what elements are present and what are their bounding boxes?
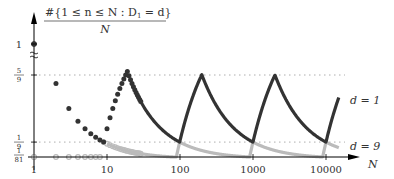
y-tick-label-den: 81 — [15, 156, 24, 164]
y-tick-label-den: 9 — [17, 76, 21, 84]
x-axis-arrow-icon — [348, 154, 360, 160]
data-point — [125, 69, 130, 74]
label-d1: d = 1 — [350, 94, 380, 107]
data-point — [101, 140, 106, 145]
data-point — [113, 98, 118, 103]
chart: 11010010001000018119591 #{1 ≤ n ≤ N : D1… — [0, 0, 394, 179]
x-tick-label: 10000 — [310, 164, 342, 175]
data-point — [66, 106, 71, 111]
y-tick-label-den: 9 — [17, 143, 21, 151]
y-axis-arrow-icon — [31, 12, 37, 24]
title-numerator: #{1 ≤ n ≤ N : D1 = d} — [45, 6, 172, 20]
series-line-d9 — [107, 142, 339, 157]
data-point — [88, 131, 93, 136]
x-tick-label: 100 — [170, 164, 189, 175]
data-point — [83, 126, 88, 131]
data-point — [117, 86, 122, 91]
y-axis-title: #{1 ≤ n ≤ N : D1 = d}N — [44, 6, 172, 36]
data-point — [115, 92, 120, 97]
data-point — [119, 81, 124, 86]
y-tick-label-num: 1 — [17, 134, 21, 142]
x-tick-label: 1000 — [240, 164, 265, 175]
data-point — [105, 126, 110, 131]
x-tick-label: 1 — [31, 164, 37, 175]
y-tick-label: 1 — [16, 39, 22, 50]
data-point — [53, 81, 58, 86]
x-axis-label: N — [367, 158, 378, 171]
data-point — [110, 106, 115, 111]
series-d1 — [32, 42, 339, 145]
data-point — [93, 135, 98, 140]
series-d9 — [32, 140, 339, 160]
data-point — [108, 115, 113, 120]
data-point — [75, 119, 80, 124]
series-labels: d = 1d = 9N — [350, 94, 380, 171]
label-d9: d = 9 — [350, 140, 380, 153]
x-tick-label: 10 — [101, 164, 114, 175]
series-line-d1 — [136, 75, 339, 142]
title-denominator: N — [99, 23, 110, 36]
y-tick-label-num: 5 — [17, 67, 21, 75]
